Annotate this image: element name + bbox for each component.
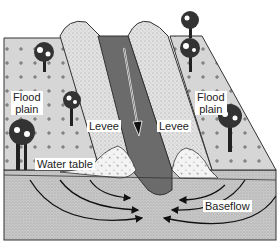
- label-line: Flood: [197, 91, 225, 103]
- flood-plain-right-label: Flood plain: [195, 91, 227, 115]
- label-line: Flood: [13, 91, 41, 103]
- label-line: plain: [13, 103, 41, 115]
- flood-plain-left-label: Flood plain: [11, 91, 43, 115]
- tree-icon: [181, 11, 199, 38]
- levee-right-label: Levee: [157, 120, 191, 132]
- label-line: plain: [197, 103, 225, 115]
- baseflow-label: Baseflow: [203, 200, 252, 212]
- water-table-label: Water table: [35, 158, 95, 170]
- levee-left-label: Levee: [87, 120, 121, 132]
